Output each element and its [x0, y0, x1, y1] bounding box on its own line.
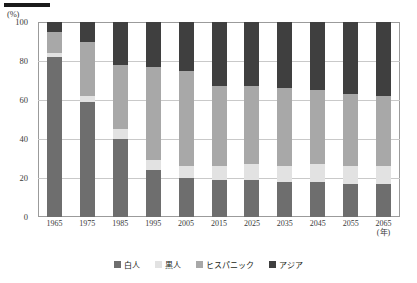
bar-segment-黒人	[113, 129, 128, 139]
stacked-bar	[343, 22, 358, 217]
stacked-bar	[146, 22, 161, 217]
stacked-bar	[113, 22, 128, 217]
legend-label: 白人	[124, 259, 140, 270]
bar-segment-アジア	[47, 22, 62, 32]
header-rule	[4, 3, 50, 7]
bar-series-container	[38, 22, 400, 217]
bar-segment-ヒスパニック	[212, 86, 227, 166]
bar-column-2035[interactable]	[277, 22, 292, 217]
bar-column-1995[interactable]	[146, 22, 161, 217]
bar-segment-黒人	[310, 164, 325, 182]
legend-label: アジア	[279, 259, 303, 270]
x-tick-2035: 2035	[268, 220, 301, 229]
bar-segment-黒人	[277, 166, 292, 182]
x-tick-1965: 1965	[38, 220, 71, 229]
bar-segment-ヒスパニック	[179, 71, 194, 167]
bar-segment-ヒスパニック	[244, 86, 259, 164]
chart-page: (%) 100806040200 19651975198519952005201…	[0, 0, 417, 283]
stacked-bar	[277, 22, 292, 217]
bar-segment-アジア	[80, 22, 95, 42]
chart-legend: 白人黒人ヒスパニックアジア	[0, 259, 417, 270]
legend-item-黒人[interactable]: 黒人	[155, 259, 181, 270]
bar-segment-アジア	[212, 22, 227, 86]
plot-area	[38, 22, 400, 217]
bar-segment-白人	[212, 180, 227, 217]
y-axis-ticks: 100806040200	[0, 22, 34, 217]
legend-label: ヒスパニック	[206, 259, 254, 270]
bar-segment-アジア	[179, 22, 194, 71]
stacked-bar	[47, 22, 62, 217]
bar-column-1985[interactable]	[113, 22, 128, 217]
stacked-bar	[244, 22, 259, 217]
bar-segment-白人	[80, 102, 95, 217]
legend-swatch-icon	[155, 261, 162, 268]
legend-swatch-icon	[196, 261, 203, 268]
bar-segment-アジア	[244, 22, 259, 86]
x-tick-2025: 2025	[235, 220, 268, 229]
bar-column-2055[interactable]	[343, 22, 358, 217]
bar-segment-白人	[146, 170, 161, 217]
legend-item-アジア[interactable]: アジア	[269, 259, 303, 270]
x-tick-2045: 2045	[301, 220, 334, 229]
x-tick-1995: 1995	[137, 220, 170, 229]
stacked-bar	[80, 22, 95, 217]
bar-segment-白人	[310, 182, 325, 217]
x-axis-unit-label: (年)	[367, 229, 400, 238]
bar-segment-白人	[113, 139, 128, 217]
bar-segment-ヒスパニック	[376, 96, 391, 166]
y-tick-100: 100	[0, 18, 28, 27]
bar-segment-アジア	[343, 22, 358, 94]
bar-column-2065[interactable]	[376, 22, 391, 217]
bar-segment-黒人	[146, 160, 161, 170]
bar-segment-アジア	[277, 22, 292, 88]
bar-segment-ヒスパニック	[47, 32, 62, 53]
bar-segment-黒人	[212, 166, 227, 180]
bar-segment-黒人	[376, 166, 391, 184]
x-tick-2015: 2015	[203, 220, 236, 229]
x-tick-2005: 2005	[170, 220, 203, 229]
bar-segment-白人	[47, 57, 62, 217]
bar-segment-白人	[179, 178, 194, 217]
bar-segment-ヒスパニック	[310, 90, 325, 164]
bar-segment-白人	[244, 180, 259, 217]
bar-column-2015[interactable]	[212, 22, 227, 217]
bar-segment-アジア	[310, 22, 325, 90]
bar-segment-白人	[376, 184, 391, 217]
x-tick-1975: 1975	[71, 220, 104, 229]
legend-swatch-icon	[114, 261, 121, 268]
bar-column-2025[interactable]	[244, 22, 259, 217]
bar-column-2005[interactable]	[179, 22, 194, 217]
bar-segment-アジア	[113, 22, 128, 65]
stacked-bar	[179, 22, 194, 217]
bar-segment-黒人	[179, 166, 194, 178]
x-axis-labels: 1965197519851995200520152025203520452055…	[38, 220, 400, 236]
y-tick-80: 80	[0, 57, 28, 66]
bar-column-1965[interactable]	[47, 22, 62, 217]
bar-segment-白人	[277, 182, 292, 217]
bar-segment-黒人	[244, 164, 259, 180]
bar-column-1975[interactable]	[80, 22, 95, 217]
bar-segment-ヒスパニック	[113, 65, 128, 129]
legend-swatch-icon	[269, 261, 276, 268]
stacked-bar	[376, 22, 391, 217]
legend-item-ヒスパニック[interactable]: ヒスパニック	[196, 259, 254, 270]
y-tick-60: 60	[0, 96, 28, 105]
bar-segment-白人	[343, 184, 358, 217]
stacked-bar	[212, 22, 227, 217]
y-tick-40: 40	[0, 135, 28, 144]
legend-label: 黒人	[165, 259, 181, 270]
bar-segment-アジア	[376, 22, 391, 96]
bar-segment-ヒスパニック	[80, 42, 95, 97]
y-tick-0: 0	[0, 213, 28, 222]
legend-item-白人[interactable]: 白人	[114, 259, 140, 270]
bar-segment-アジア	[146, 22, 161, 67]
x-tick-2055: 2055	[334, 220, 367, 229]
y-tick-20: 20	[0, 174, 28, 183]
bar-segment-ヒスパニック	[277, 88, 292, 166]
bar-segment-ヒスパニック	[146, 67, 161, 161]
bar-segment-黒人	[343, 166, 358, 184]
bar-segment-ヒスパニック	[343, 94, 358, 166]
bar-column-2045[interactable]	[310, 22, 325, 217]
stacked-bar	[310, 22, 325, 217]
x-tick-1985: 1985	[104, 220, 137, 229]
